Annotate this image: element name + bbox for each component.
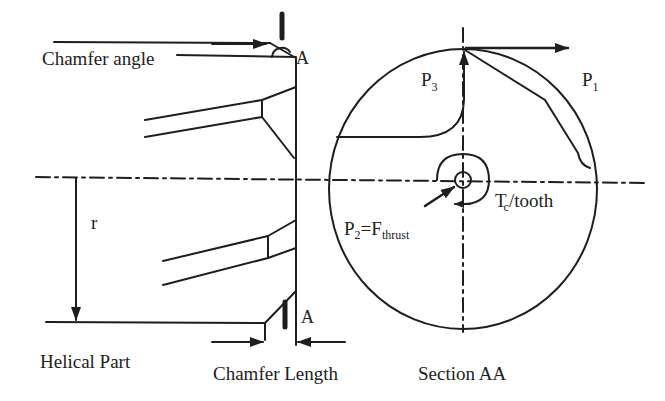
chamfer-length-label: Chamfer Length xyxy=(213,363,339,384)
torque-label: Tc/tooth xyxy=(495,190,554,214)
section-marker-top: A xyxy=(296,48,309,68)
section-aa-view xyxy=(329,48,597,329)
upper-flute-line-1 xyxy=(145,100,262,120)
chamfer-angle-label: Chamfer angle xyxy=(42,48,154,69)
drill-top-edge xyxy=(54,42,270,43)
chamfer-reference-line xyxy=(177,55,296,57)
upper-flute-line-2 xyxy=(145,117,262,137)
drill-side-view xyxy=(46,42,296,345)
p2-thrust-arrow xyxy=(425,187,454,206)
horizontal-centerline xyxy=(36,177,645,183)
p3-label: P3 xyxy=(421,69,438,94)
lower-flute-line-1 xyxy=(163,236,268,261)
p3-flute-curve xyxy=(337,60,464,137)
section-aa-title: Section AA xyxy=(418,363,506,384)
section-marker-bottom: A xyxy=(301,307,314,327)
p1-label: P1 xyxy=(582,69,599,94)
p2-thrust-label: P2=Fthrust xyxy=(344,218,410,242)
lower-flute-line-2 xyxy=(163,258,268,285)
helical-part-label: Helical Part xyxy=(40,351,131,372)
radius-label: r xyxy=(91,212,98,233)
upper-flute-lip-2 xyxy=(262,117,294,158)
drill-bottom-edge xyxy=(46,322,265,323)
drill-diagram: Chamfer angle A A r Helical Part Chamfer… xyxy=(0,0,665,401)
bottom-chamfer-edge xyxy=(265,291,296,323)
upper-flute-lip-1 xyxy=(262,87,296,100)
lower-flute-lip-1 xyxy=(268,220,296,236)
lower-flute-lip-2 xyxy=(268,248,296,258)
p1-flute-curve xyxy=(465,50,590,168)
